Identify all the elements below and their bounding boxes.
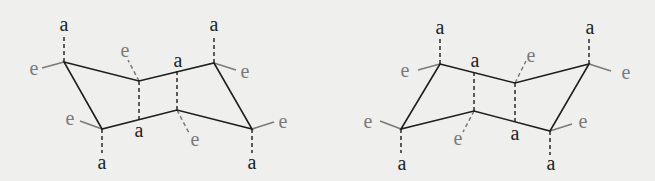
equatorial-bond bbox=[380, 121, 401, 129]
equatorial-bond bbox=[589, 64, 611, 71]
axial-label: a bbox=[135, 119, 144, 141]
equatorial-label: e bbox=[241, 60, 250, 82]
equatorial-label: e bbox=[579, 110, 588, 132]
chair-right: aeeaaeaeeaea bbox=[364, 16, 631, 174]
axial-label: a bbox=[398, 152, 407, 174]
equatorial-label: e bbox=[622, 61, 631, 83]
axial-label: a bbox=[98, 151, 107, 173]
ring-bonds bbox=[401, 64, 589, 131]
equatorial-bond bbox=[252, 122, 274, 129]
equatorial-label: e bbox=[527, 44, 536, 66]
axial-label: a bbox=[471, 49, 480, 71]
axial-label: a bbox=[210, 13, 219, 35]
axial-label: a bbox=[248, 151, 257, 173]
axial-label: a bbox=[174, 49, 183, 71]
equatorial-bond bbox=[515, 61, 526, 83]
equatorial-label: e bbox=[279, 110, 288, 132]
axial-label: a bbox=[547, 152, 556, 174]
equatorial-label: e bbox=[401, 59, 410, 81]
equatorial-bond bbox=[463, 111, 474, 132]
equatorial-label: e bbox=[364, 110, 373, 132]
axial-label: a bbox=[511, 122, 520, 144]
equatorial-label: e bbox=[454, 127, 463, 149]
equatorial-bond bbox=[42, 62, 64, 68]
equatorial-label: e bbox=[30, 57, 39, 79]
cyclohexane-chair-diagram: aeeaaeaeeaeaaeeaaeaeeaea bbox=[0, 0, 655, 181]
chair-left: aeeaaeaeeaea bbox=[30, 13, 288, 173]
axial-label: a bbox=[586, 16, 595, 38]
equatorial-label: e bbox=[191, 128, 200, 150]
axial-label: a bbox=[60, 13, 69, 35]
equatorial-bond bbox=[177, 110, 189, 133]
axial-label: a bbox=[436, 16, 445, 38]
equatorial-label: e bbox=[121, 39, 130, 61]
ring-bonds bbox=[64, 62, 252, 129]
equatorial-label: e bbox=[66, 107, 75, 129]
